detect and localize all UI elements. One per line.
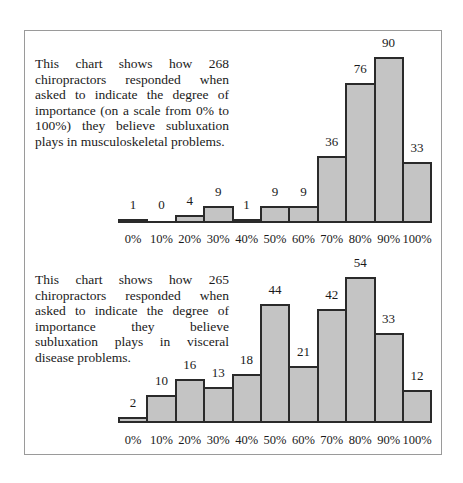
bar-value-label: 1 bbox=[233, 197, 261, 213]
bar bbox=[288, 366, 318, 423]
bar-value-label: 9 bbox=[261, 184, 289, 200]
x-tick-label: 90% bbox=[374, 232, 404, 247]
x-tick-label: 10% bbox=[146, 232, 176, 247]
bar-value-label: 76 bbox=[346, 61, 374, 77]
bar-value-label: 21 bbox=[289, 344, 317, 360]
bar bbox=[118, 219, 148, 223]
x-tick-label: 100% bbox=[402, 433, 432, 448]
bar-value-label: 42 bbox=[318, 287, 346, 303]
bar bbox=[402, 162, 432, 223]
bar-value-label: 1 bbox=[119, 197, 147, 213]
bar-value-label: 33 bbox=[403, 140, 431, 156]
x-tick-label: 60% bbox=[288, 433, 318, 448]
x-tick-label: 30% bbox=[203, 433, 233, 448]
bar-value-label: 44 bbox=[261, 282, 289, 298]
bar bbox=[232, 374, 262, 423]
x-tick-label: 70% bbox=[317, 232, 347, 247]
x-tick-label: 40% bbox=[232, 232, 262, 247]
bar bbox=[118, 417, 148, 423]
x-tick-label: 0% bbox=[118, 232, 148, 247]
chart2-description: This chart shows how 265 chiropractors r… bbox=[35, 272, 229, 365]
x-tick-label: 100% bbox=[402, 232, 432, 247]
bar bbox=[288, 206, 318, 223]
chart1-description: This chart shows how 268 chiropractors r… bbox=[35, 56, 229, 149]
bar bbox=[317, 156, 347, 223]
bar-value-label: 18 bbox=[233, 352, 261, 368]
bar bbox=[374, 57, 404, 223]
bar bbox=[374, 333, 404, 423]
bar-value-label: 33 bbox=[375, 311, 403, 327]
bar-value-label: 54 bbox=[346, 255, 374, 271]
x-tick-label: 80% bbox=[345, 433, 375, 448]
bar bbox=[175, 215, 205, 223]
bar bbox=[317, 309, 347, 423]
bar bbox=[175, 379, 205, 423]
x-tick-label: 90% bbox=[374, 433, 404, 448]
bar bbox=[146, 221, 176, 223]
x-tick-label: 10% bbox=[146, 433, 176, 448]
x-tick-label: 50% bbox=[260, 433, 290, 448]
bar bbox=[345, 277, 375, 423]
bar-value-label: 12 bbox=[403, 368, 431, 384]
bar bbox=[345, 83, 375, 223]
x-tick-label: 80% bbox=[345, 232, 375, 247]
bar bbox=[232, 219, 262, 223]
bar-value-label: 0 bbox=[147, 197, 175, 213]
bar bbox=[146, 395, 176, 423]
bar bbox=[203, 387, 233, 423]
x-tick-label: 60% bbox=[288, 232, 318, 247]
x-tick-label: 20% bbox=[175, 232, 205, 247]
bar-value-label: 13 bbox=[204, 365, 232, 381]
bar bbox=[260, 304, 290, 423]
x-tick-label: 30% bbox=[203, 232, 233, 247]
x-tick-label: 50% bbox=[260, 232, 290, 247]
bar-value-label: 2 bbox=[119, 395, 147, 411]
bar-value-label: 9 bbox=[204, 184, 232, 200]
bar bbox=[402, 390, 432, 423]
bar-value-label: 10 bbox=[147, 373, 175, 389]
x-tick-label: 20% bbox=[175, 433, 205, 448]
bar bbox=[203, 206, 233, 223]
bar-value-label: 4 bbox=[176, 193, 204, 209]
bar bbox=[260, 206, 290, 223]
bar-value-label: 90 bbox=[375, 35, 403, 51]
x-tick-label: 40% bbox=[232, 433, 262, 448]
bar-value-label: 36 bbox=[318, 134, 346, 150]
bar-value-label: 16 bbox=[176, 357, 204, 373]
x-tick-label: 70% bbox=[317, 433, 347, 448]
x-tick-label: 0% bbox=[118, 433, 148, 448]
bar-value-label: 9 bbox=[289, 184, 317, 200]
